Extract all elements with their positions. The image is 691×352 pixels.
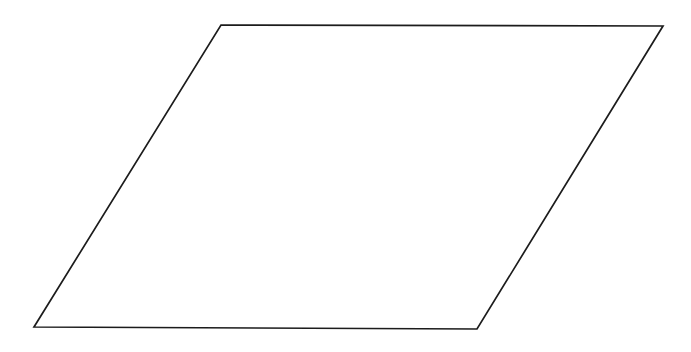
- drawing-canvas: [0, 0, 691, 352]
- parallelogram-figure: [0, 0, 691, 352]
